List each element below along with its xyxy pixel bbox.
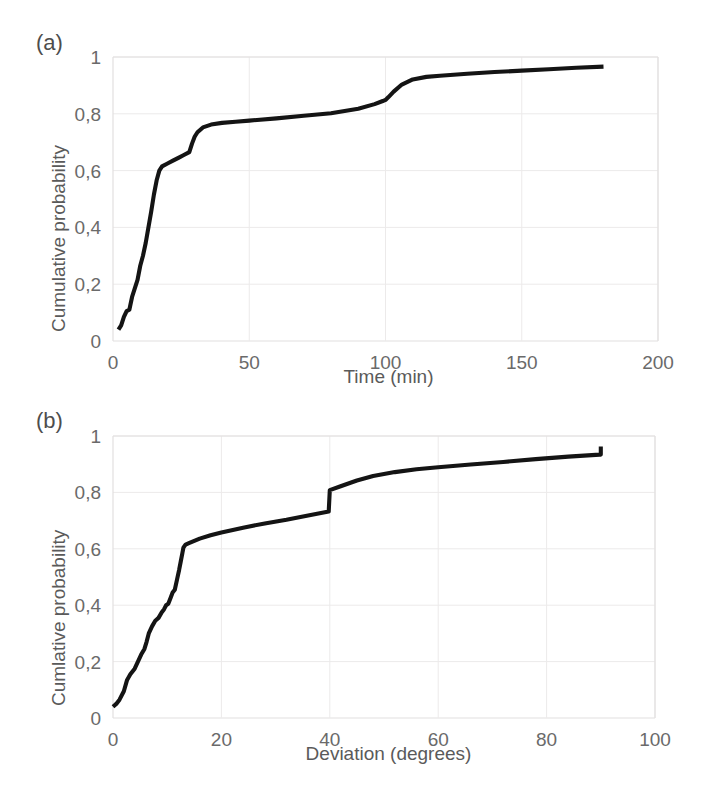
data-curve (113, 446, 601, 706)
x-tick-label: 0 (108, 729, 119, 750)
panel-a-plot-area: 00,20,40,60,81050100150200 (0, 0, 717, 396)
y-tick-label: 0,2 (75, 652, 101, 673)
panel-b-svg: 00,20,40,60,81020406080100 (0, 396, 717, 792)
panel-a-svg: 00,20,40,60,81050100150200 (0, 0, 717, 396)
y-tick-label: 0,4 (75, 217, 102, 238)
y-tick-label: 0,4 (75, 595, 102, 616)
figure-panel-a: (a) Cumulative probability Time (min) 00… (0, 0, 717, 396)
y-tick-label: 0,8 (75, 482, 101, 503)
panel-b-plot-area: 00,20,40,60,81020406080100 (0, 396, 717, 792)
y-tick-label: 1 (90, 426, 101, 447)
y-tick-label: 0,8 (75, 104, 101, 125)
x-tick-label: 80 (536, 729, 557, 750)
data-curve (118, 67, 603, 330)
x-tick-label: 100 (639, 729, 671, 750)
y-tick-label: 0 (90, 331, 101, 352)
y-tick-label: 0,2 (75, 274, 101, 295)
x-tick-label: 100 (370, 352, 402, 373)
x-tick-label: 40 (319, 729, 340, 750)
x-tick-label: 200 (642, 352, 674, 373)
y-tick-label: 0 (90, 708, 101, 729)
x-tick-label: 50 (239, 352, 260, 373)
x-tick-label: 0 (108, 352, 119, 373)
y-tick-label: 1 (90, 47, 101, 68)
x-tick-label: 20 (211, 729, 232, 750)
x-tick-label: 150 (506, 352, 538, 373)
x-tick-label: 60 (428, 729, 449, 750)
y-tick-label: 0,6 (75, 161, 101, 182)
figure-panel-b: (b) Cumlative probability Deviation (deg… (0, 396, 717, 792)
y-tick-label: 0,6 (75, 539, 101, 560)
